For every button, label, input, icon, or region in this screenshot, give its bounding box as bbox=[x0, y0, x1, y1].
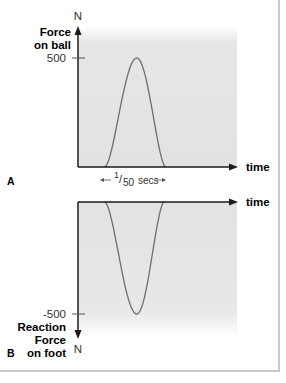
panel-b-xlabel: time bbox=[246, 196, 270, 208]
panel-b-y-unit: N bbox=[74, 343, 82, 355]
duration-annotation: 1 / 50 secs bbox=[100, 170, 166, 188]
panel-b: -500 N Reaction Force on foot time B bbox=[7, 196, 270, 359]
panel-b-ylabel-line-3: on foot bbox=[27, 347, 66, 359]
panel-a-ylabel-line-1: Force bbox=[40, 26, 71, 38]
panel-b-ylabel-line-1: Reaction bbox=[17, 321, 66, 333]
force-diagram: 500 N Force on ball time A 1 / 50 secs -… bbox=[0, 0, 286, 383]
panel-a-ytick-label: 500 bbox=[47, 52, 66, 64]
panel-a-ylabel-line-2: on ball bbox=[34, 39, 71, 51]
duration-left-arrowhead-icon bbox=[100, 178, 104, 182]
duration-denominator: 50 bbox=[123, 177, 135, 188]
panel-a-xlabel: time bbox=[246, 161, 270, 173]
panel-b-label: B bbox=[7, 347, 15, 359]
panel-b-ylabel-line-2: Force bbox=[35, 334, 66, 346]
panel-a: 500 N Force on ball time A 1 / 50 secs bbox=[7, 10, 270, 188]
duration-right-arrowhead-icon bbox=[162, 178, 166, 182]
panel-a-label: A bbox=[7, 175, 15, 187]
duration-unit: secs bbox=[138, 175, 159, 186]
panel-b-ytick-label: -500 bbox=[43, 308, 66, 320]
panel-a-shade bbox=[79, 26, 237, 167]
panel-a-y-unit: N bbox=[74, 10, 82, 22]
